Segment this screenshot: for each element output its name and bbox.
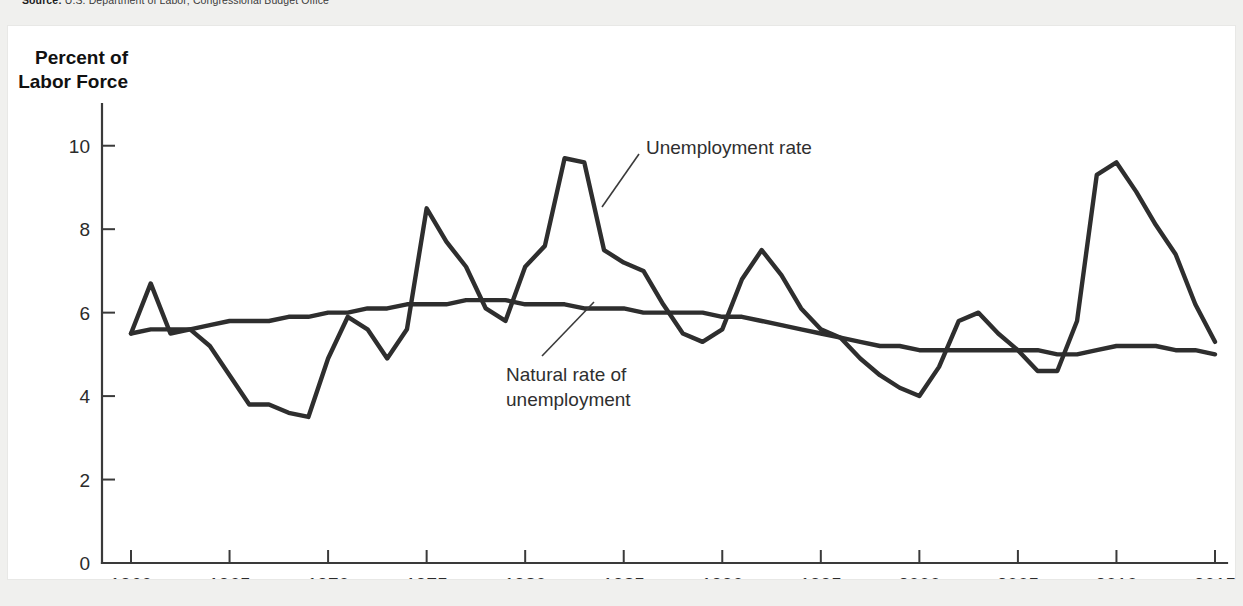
natural-rate-annotation: Natural rate of unemployment — [506, 302, 631, 410]
x-tick-label-2000: 2000 — [898, 574, 940, 579]
y-tick-label-2: 2 — [79, 470, 90, 491]
natural-rate-line — [131, 300, 1215, 354]
natural-leader-line — [542, 302, 594, 356]
x-tick-label-2010: 2010 — [1095, 574, 1137, 579]
unemployment-annotation-label: Unemployment rate — [646, 137, 812, 158]
y-tick-label-10: 10 — [69, 136, 90, 157]
y-axis-ticks: 0246810 — [69, 136, 115, 574]
x-tick-label-1965: 1965 — [208, 574, 250, 579]
x-axis-ticks: 1960196519701975198019851990199520002005… — [110, 550, 1235, 579]
y-axis-title-line2: Labor Force — [18, 71, 128, 92]
unemployment-rate-line — [131, 158, 1215, 417]
unemployment-leader-line — [602, 154, 639, 207]
y-tick-label-6: 6 — [79, 303, 90, 324]
x-tick-label-2015: 2015 — [1194, 574, 1235, 579]
y-axis-title: Percent of Labor Force — [18, 47, 128, 92]
x-tick-label-1995: 1995 — [800, 574, 842, 579]
x-tick-label-1990: 1990 — [701, 574, 743, 579]
y-tick-label-8: 8 — [79, 219, 90, 240]
y-tick-label-4: 4 — [79, 386, 90, 407]
y-tick-label-0: 0 — [79, 553, 90, 574]
source-text: U.S. Department of Labor; Congressional … — [62, 0, 329, 6]
x-tick-label-1970: 1970 — [307, 574, 349, 579]
unemployment-chart-figure: Source: U.S. Department of Labor; Congre… — [0, 0, 1243, 606]
natural-annotation-label-line2: unemployment — [506, 389, 631, 410]
unemployment-rate-annotation: Unemployment rate — [602, 137, 812, 207]
x-tick-label-2005: 2005 — [997, 574, 1039, 579]
source-note: Source: U.S. Department of Labor; Congre… — [22, 0, 329, 6]
x-tick-label-1960: 1960 — [110, 574, 152, 579]
natural-annotation-label-line1: Natural rate of — [506, 364, 627, 385]
x-tick-label-1985: 1985 — [603, 574, 645, 579]
x-tick-label-1975: 1975 — [405, 574, 447, 579]
line-chart: Percent of Labor Force 0246810 196019651… — [8, 26, 1235, 579]
source-label: Source: — [22, 0, 62, 6]
plot-panel: Percent of Labor Force 0246810 196019651… — [8, 26, 1235, 579]
x-tick-label-1980: 1980 — [504, 574, 546, 579]
y-axis-title-line1: Percent of — [35, 47, 129, 68]
